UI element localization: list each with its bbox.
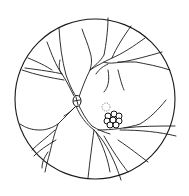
lesion-cluster	[104, 111, 122, 128]
fundus-boundary	[15, 19, 175, 179]
fundus-svg	[0, 0, 189, 196]
fundus-diagram	[0, 0, 189, 196]
